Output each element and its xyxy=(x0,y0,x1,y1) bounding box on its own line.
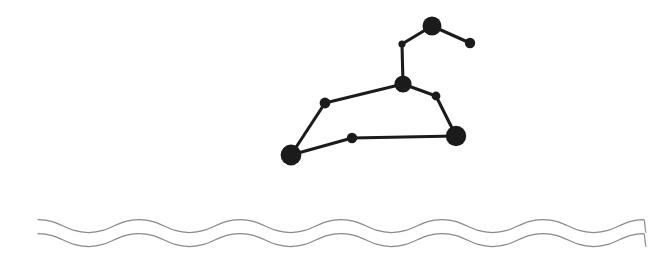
background xyxy=(0,0,657,265)
right-mid-small-star xyxy=(432,92,441,101)
lower-left-bright-star xyxy=(281,145,302,166)
central-hub-star xyxy=(394,75,411,92)
scene-svg xyxy=(0,0,657,265)
lower-right-bright-star xyxy=(446,126,466,146)
upper-tiny-star xyxy=(398,40,405,47)
top-bright-star xyxy=(423,17,442,36)
illustration-canvas xyxy=(0,0,657,265)
top-right-small-star xyxy=(465,38,475,48)
star-link-bottom-mid-small-to-right-bright xyxy=(352,136,456,138)
bottom-middle-small-star xyxy=(347,133,357,143)
left-mid-small-star xyxy=(320,98,331,109)
